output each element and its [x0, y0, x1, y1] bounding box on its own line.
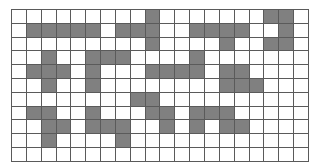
- grid-cell: [71, 51, 86, 65]
- grid-cell: [41, 78, 56, 92]
- grid-cell: [101, 10, 116, 24]
- grid-cell: [160, 134, 175, 148]
- grid-row: [12, 51, 300, 65]
- pattern-grid: [11, 9, 299, 162]
- grid-cell: [264, 106, 279, 120]
- grid-cell: [264, 134, 279, 148]
- grid-cell: [145, 78, 160, 92]
- grid-row: [12, 10, 300, 24]
- grid-cell: [264, 147, 279, 161]
- grid-cell: [249, 10, 264, 24]
- grid-cell: [234, 78, 249, 92]
- grid-cell: [115, 120, 130, 134]
- grid-cell: [264, 120, 279, 134]
- grid-cell: [175, 10, 190, 24]
- grid-cell: [130, 23, 145, 37]
- grid-row: [12, 78, 300, 92]
- grid-cell: [71, 23, 86, 37]
- grid-cell: [12, 23, 27, 37]
- grid-cell: [175, 37, 190, 51]
- grid-cell: [264, 92, 279, 106]
- grid-cell: [115, 106, 130, 120]
- grid-cell: [26, 37, 41, 51]
- grid-cell: [26, 78, 41, 92]
- grid-cell: [264, 37, 279, 51]
- grid-cell: [71, 120, 86, 134]
- grid-cell: [86, 120, 101, 134]
- grid-cell: [86, 51, 101, 65]
- grid-cell: [86, 147, 101, 161]
- grid-cell: [56, 134, 71, 148]
- grid-cell: [204, 37, 219, 51]
- grid-cell: [160, 65, 175, 79]
- grid-cell: [101, 37, 116, 51]
- grid-cell: [71, 134, 86, 148]
- grid-cell: [56, 37, 71, 51]
- grid-cell: [56, 65, 71, 79]
- grid-cell: [279, 106, 294, 120]
- grid-cell: [145, 120, 160, 134]
- grid-cell: [130, 37, 145, 51]
- grid-cell: [234, 10, 249, 24]
- grid-cell: [130, 51, 145, 65]
- grid-cell: [115, 23, 130, 37]
- grid-cell: [115, 147, 130, 161]
- grid-cell: [219, 78, 234, 92]
- grid-cell: [115, 65, 130, 79]
- grid-cell: [234, 51, 249, 65]
- grid-cell: [190, 37, 205, 51]
- grid-cell: [190, 120, 205, 134]
- grid-cell: [86, 23, 101, 37]
- grid-cell: [56, 51, 71, 65]
- grid-cell: [219, 51, 234, 65]
- grid-cell: [190, 51, 205, 65]
- grid-cell: [160, 51, 175, 65]
- grid-cell: [160, 147, 175, 161]
- grid-cell: [204, 10, 219, 24]
- grid-cell: [294, 120, 299, 134]
- grid-cell: [160, 10, 175, 24]
- grid-cell: [279, 92, 294, 106]
- grid-cell: [279, 23, 294, 37]
- grid-cell: [249, 37, 264, 51]
- grid-cell: [264, 65, 279, 79]
- grid-cell: [249, 147, 264, 161]
- grid-cell: [71, 92, 86, 106]
- grid-cell: [249, 51, 264, 65]
- grid-cell: [190, 147, 205, 161]
- grid-cell: [26, 92, 41, 106]
- grid-cell: [71, 65, 86, 79]
- grid-cell: [234, 23, 249, 37]
- grid-cell: [279, 120, 294, 134]
- grid-cell: [234, 106, 249, 120]
- grid-cell: [12, 51, 27, 65]
- grid-cell: [294, 37, 299, 51]
- grid-cell: [12, 147, 27, 161]
- grid-cell: [249, 120, 264, 134]
- grid-cell: [175, 120, 190, 134]
- grid-cell: [175, 106, 190, 120]
- grid-cell: [130, 78, 145, 92]
- grid-cell: [12, 65, 27, 79]
- grid-cell: [145, 134, 160, 148]
- grid-cell: [160, 106, 175, 120]
- grid-cell: [175, 92, 190, 106]
- grid-cell: [294, 51, 299, 65]
- grid-cell: [101, 51, 116, 65]
- grid-cell: [12, 10, 27, 24]
- grid-cell: [175, 147, 190, 161]
- grid-cell: [204, 134, 219, 148]
- grid-cell: [86, 134, 101, 148]
- grid-cell: [26, 10, 41, 24]
- grid-cell: [26, 23, 41, 37]
- grid-cell: [204, 92, 219, 106]
- grid-cell: [249, 65, 264, 79]
- grid-cell: [86, 37, 101, 51]
- grid-cell: [86, 10, 101, 24]
- grid-cell: [71, 78, 86, 92]
- grid-row: [12, 23, 300, 37]
- grid-cell: [71, 10, 86, 24]
- grid-cell: [130, 120, 145, 134]
- grid-cell: [56, 106, 71, 120]
- grid-cell: [101, 92, 116, 106]
